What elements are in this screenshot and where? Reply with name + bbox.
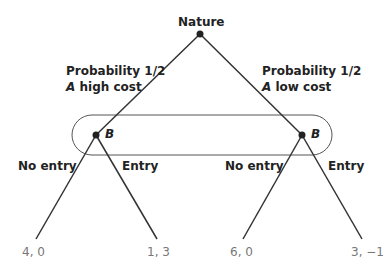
payoff-left-entry: 1, 3 bbox=[147, 245, 170, 259]
branch-right-no-entry bbox=[243, 135, 302, 239]
branch-left-entry bbox=[96, 135, 157, 239]
node-label-left: B bbox=[105, 127, 114, 141]
probability-label-right: Probability 1/2 bbox=[262, 63, 361, 79]
payoff-right-no-entry: 6, 0 bbox=[230, 245, 253, 259]
player-b-node-right bbox=[299, 132, 306, 139]
type-label-right-player: A bbox=[262, 80, 271, 94]
nature-node bbox=[197, 31, 204, 38]
branch-left-no-entry bbox=[36, 135, 96, 239]
action-right-entry: Entry bbox=[328, 158, 364, 174]
action-left-entry: Entry bbox=[122, 158, 158, 174]
game-tree-graphics bbox=[0, 0, 387, 269]
player-b-node-left bbox=[93, 132, 100, 139]
node-label-right: B bbox=[311, 127, 320, 141]
type-label-right-text: low cost bbox=[271, 80, 331, 94]
probability-label-left: Probability 1/2 bbox=[66, 63, 165, 79]
type-label-left-player: A bbox=[66, 80, 75, 94]
payoff-right-entry: 3, −1 bbox=[351, 245, 384, 259]
nature-label: Nature bbox=[178, 14, 224, 30]
payoff-left-no-entry: 4, 0 bbox=[22, 245, 45, 259]
type-label-right: A low cost bbox=[262, 79, 331, 95]
action-right-no-entry: No entry bbox=[225, 158, 284, 174]
type-label-left-text: high cost bbox=[75, 80, 141, 94]
branch-right-entry bbox=[302, 135, 362, 239]
type-label-left: A high cost bbox=[66, 79, 142, 95]
action-left-no-entry: No entry bbox=[18, 158, 77, 174]
